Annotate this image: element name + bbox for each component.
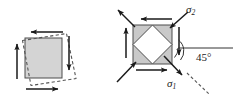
sigma2-arrow-lower-left [117, 62, 136, 82]
sigma2-label: σ2 [186, 4, 195, 17]
sigma1-axis-dashed-extension [187, 73, 209, 94]
left-panel-group [17, 32, 76, 89]
left-element-square [25, 38, 62, 78]
angle-arc [175, 48, 179, 58]
stress-element-figure: σ2 σ1 45° [0, 0, 236, 98]
sigma1-label: σ1 [167, 78, 176, 91]
sigma1-arrow-upper-left [118, 10, 135, 27]
figure-canvas [0, 0, 236, 98]
angle-45-label: 45° [196, 52, 211, 63]
sigma1-arrow-lower-right [164, 56, 182, 75]
